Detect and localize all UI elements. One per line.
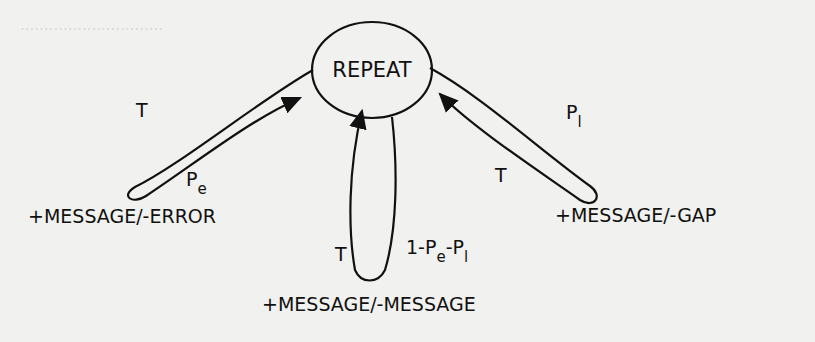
loop-error-action: +MESSAGE/-ERROR — [28, 205, 216, 227]
loop-message-edge — [350, 111, 395, 281]
loop-gap-out-label: Pl — [566, 101, 582, 131]
loop-error-out — [128, 70, 313, 200]
loop-error-out-label: T — [135, 99, 148, 121]
loop-gap-edge — [430, 68, 597, 203]
loop-gap-action: +MESSAGE/-GAP — [555, 204, 716, 226]
state-repeat-label: REPEAT — [332, 58, 412, 82]
loop-message-action: +MESSAGE/-MESSAGE — [262, 293, 476, 315]
loop-message-in-label: 1-Pe-Pl — [406, 236, 468, 266]
loop-error-in-label: Pe — [186, 168, 207, 198]
background-bleed-through: .............................. — [20, 16, 163, 34]
svg-text:..............................: .............................. — [20, 16, 163, 34]
diagram-canvas: .............................. REPEAT T … — [0, 0, 815, 342]
loop-message-out-label: T — [334, 243, 347, 265]
loop-gap-in-label: T — [494, 164, 507, 186]
